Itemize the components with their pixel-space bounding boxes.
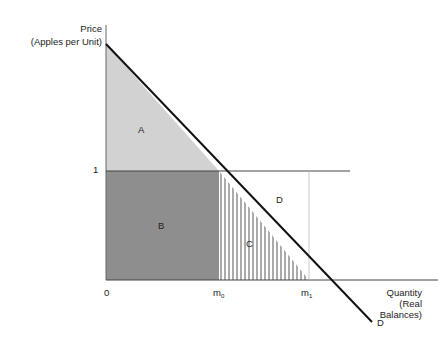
region-b-label: B (158, 220, 164, 231)
x-tick-m0: m0 (213, 287, 224, 302)
x-tick-m0-base: m (213, 287, 221, 298)
x-tick-m0-sub: 0 (221, 293, 224, 299)
y-axis-label-line1: Price (40, 23, 102, 34)
region-c (219, 171, 309, 280)
region-a-label: A (138, 124, 144, 135)
x-axis-label-line3: Balances) (350, 309, 422, 320)
x-axis-label-line1: Quantity (360, 287, 422, 298)
region-d-label: D (276, 194, 283, 205)
y-axis-label-line2: (Apples per Unit) (0, 36, 102, 47)
x-tick-m1: m1 (301, 287, 312, 302)
demand-curve-label: D (377, 317, 384, 328)
y-tick-1: 1 (93, 164, 98, 175)
region-c-label: C (246, 238, 253, 249)
x-tick-m1-sub: 1 (309, 293, 312, 299)
x-axis-label-line2: (Real (360, 298, 422, 309)
x-tick-0: 0 (104, 287, 109, 298)
x-tick-m1-base: m (301, 287, 309, 298)
